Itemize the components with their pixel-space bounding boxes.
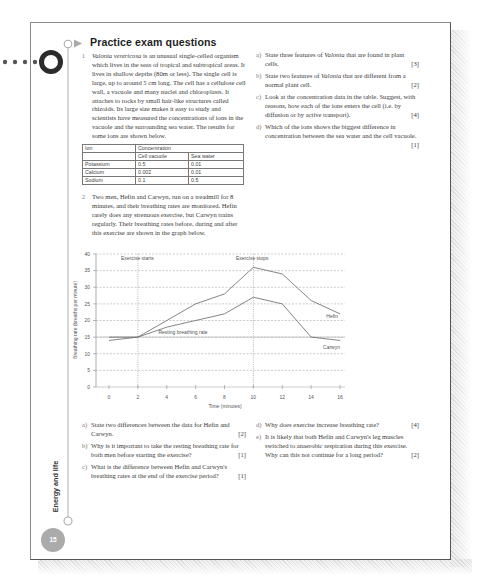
y-axis-label: Breathing rate (breaths per minute) [72,281,78,359]
part-text: What is the difference between Hefin and… [91,463,227,479]
x-axis-label: Time (minutes) [208,403,241,409]
x-tick-label: 16 [337,394,343,400]
question-2b: b)Why is it important to take the restin… [82,442,246,460]
y-tick-label: 15 [84,334,90,340]
legend-carwyn: Carwyn [323,344,340,350]
part-label: b) [82,442,88,451]
chapter-label: Energy and life [51,452,60,522]
x-tick-label: 2 [136,394,139,400]
breathing-rate-chart: 05101520253035400246810121416 Exercise s… [0,0,479,577]
y-tick-label: 5 [87,367,90,373]
question-2-parts-right: d)Why does exercise increase breathing r… [256,421,419,463]
legend-hefin: Hefin [326,313,338,319]
part-label: c) [82,463,87,472]
y-tick-label: 25 [84,301,90,307]
x-tick-label: 4 [165,394,168,400]
question-2a: a)State two differences between the data… [82,421,246,439]
x-tick-label: 6 [194,394,197,400]
y-tick-label: 35 [84,267,90,273]
y-tick-label: 10 [84,351,90,357]
question-2e: e)It is likely that both Hefin and Carwy… [256,433,419,460]
question-2c: c)What is the difference between Hefin a… [82,463,246,481]
x-tick-label: 12 [279,394,285,400]
part-label: e) [256,433,261,442]
x-tick-label: 0 [108,394,111,400]
part-label: a) [82,421,87,430]
page-number: 15 [41,528,65,552]
marks: [2] [238,430,246,439]
part-text: Why does exercise increase breathing rat… [265,421,379,428]
question-2-parts-left: a)State two differences between the data… [82,421,246,484]
annotation-exercise-stops: Exercise stops [236,255,269,261]
y-tick-label: 30 [84,284,90,290]
marks: [1] [238,451,246,460]
annotation-exercise-starts: Exercise starts [121,255,154,261]
x-tick-label: 10 [251,394,257,400]
question-2d: d)Why does exercise increase breathing r… [256,421,419,430]
x-tick-label: 8 [223,394,226,400]
chart-grid: 05101520253035400246810121416 [84,251,345,400]
part-text: State two differences between the data f… [91,421,230,437]
series-line-hefin [109,267,340,337]
y-tick-label: 20 [84,317,90,323]
marks: [4] [411,421,419,430]
x-tick-label: 14 [308,394,314,400]
resting-rate-label: Resting breathing rate [158,329,207,335]
marks: [1] [238,472,246,481]
y-tick-label: 0 [87,384,90,390]
chart-series [109,267,340,340]
part-label: d) [256,421,262,430]
marks: [2] [411,451,419,460]
y-tick-label: 40 [84,251,90,257]
part-text: It is likely that both Hefin and Carwyn'… [265,433,407,458]
part-text: Why is it important to take the resting … [91,442,239,458]
